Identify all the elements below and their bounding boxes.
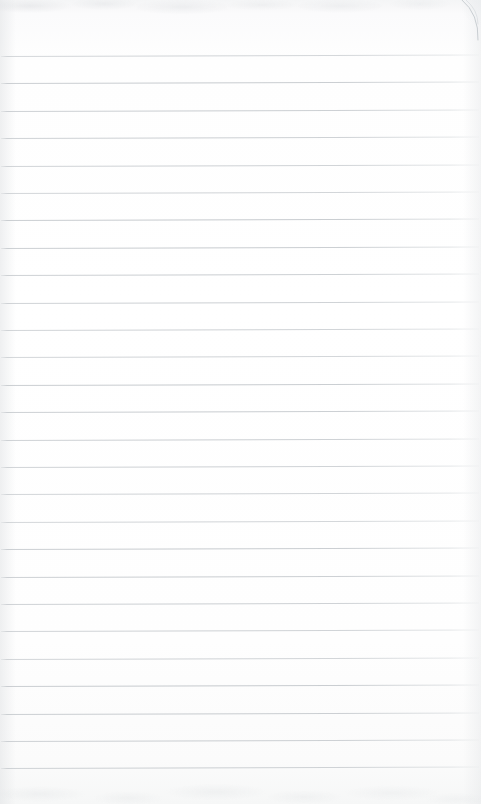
paper-sheet xyxy=(0,0,481,804)
writing-area[interactable] xyxy=(1,56,479,774)
